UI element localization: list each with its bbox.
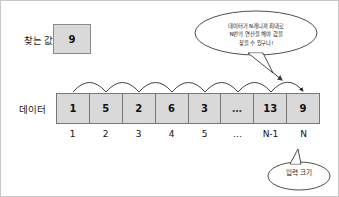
hop-arc (73, 83, 106, 93)
hop-arc-final (271, 82, 303, 92)
hop-arc (238, 83, 271, 93)
array-cell: 3 (189, 94, 222, 123)
data-array: 1 5 2 6 3 … 13 9 (56, 93, 320, 124)
hop-arc (172, 83, 205, 93)
array-cell: 6 (156, 94, 189, 123)
hop-arc (106, 83, 139, 93)
array-index-labels: 1 2 3 4 5 … N-1 N (56, 129, 320, 143)
bottom-bubble-text: 입력 크기 (270, 169, 328, 178)
hop-arc (205, 83, 238, 93)
array-cell: 5 (90, 94, 123, 123)
top-bubble-line-2: N번의 연산을 해야 값을 (197, 30, 315, 38)
array-cell: 9 (287, 94, 319, 123)
index-label: 1 (56, 129, 89, 143)
top-bubble-line-1: 데이터가 N개니까 최대로 (197, 22, 315, 30)
hop-arc (139, 83, 172, 93)
top-bubble-text: 데이터가 N개니까 최대로 N번의 연산을 해야 값을 찾을 수 있구나! (197, 22, 315, 47)
index-label: 4 (155, 129, 188, 143)
index-label: N-1 (254, 129, 287, 143)
index-label: 2 (89, 129, 122, 143)
search-value-label: 찾는 값 (24, 33, 53, 47)
index-label: 3 (122, 129, 155, 143)
diagram-canvas: 찾는 값 데이터 9 1 5 2 6 3 … 13 9 1 2 3 4 5 … … (0, 0, 339, 197)
bubble-pointer-arrow (271, 71, 282, 80)
index-label: N (287, 129, 320, 143)
bubble-tail (290, 149, 301, 164)
bottom-bubble-line-1: 입력 크기 (270, 169, 328, 178)
search-value-box: 9 (53, 24, 91, 54)
array-cell-ellipsis: … (221, 94, 254, 123)
array-cell: 2 (123, 94, 156, 123)
top-bubble-line-3: 찾을 수 있구나! (197, 39, 315, 47)
index-label: 5 (188, 129, 221, 143)
bubble-tail (248, 53, 273, 73)
array-cell: 13 (254, 94, 287, 123)
hop-arcs (73, 82, 303, 92)
array-cell: 1 (57, 94, 90, 123)
search-value-text: 9 (69, 34, 76, 45)
index-label-ellipsis: … (221, 129, 254, 143)
data-label: 데이터 (19, 102, 45, 116)
